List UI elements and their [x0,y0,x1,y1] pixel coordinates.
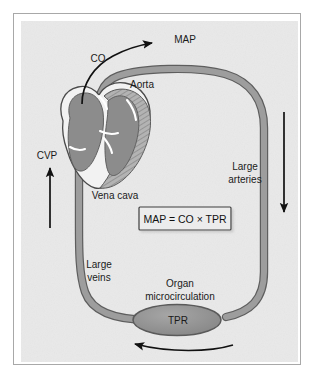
figure-root: MAP = CO × TPR CO MAP Aorta CVP Vena cav… [0,0,317,382]
equation-text: MAP = CO × TPR [143,213,226,225]
label-tpr: TPR [168,315,188,326]
label-vena-cava: Vena cava [92,190,139,201]
svg-text:Organ: Organ [166,278,194,289]
label-map: MAP [174,34,196,45]
label-cvp: CVP [37,150,58,161]
circulation-diagram: MAP = CO × TPR CO MAP Aorta CVP Vena cav… [0,0,317,382]
svg-text:microcirculation: microcirculation [145,291,214,302]
label-aorta: Aorta [130,79,154,90]
svg-text:Large: Large [232,161,258,172]
svg-text:veins: veins [87,272,110,283]
label-co: CO [91,53,106,64]
svg-text:Large: Large [86,259,112,270]
svg-text:arteries: arteries [228,174,261,185]
